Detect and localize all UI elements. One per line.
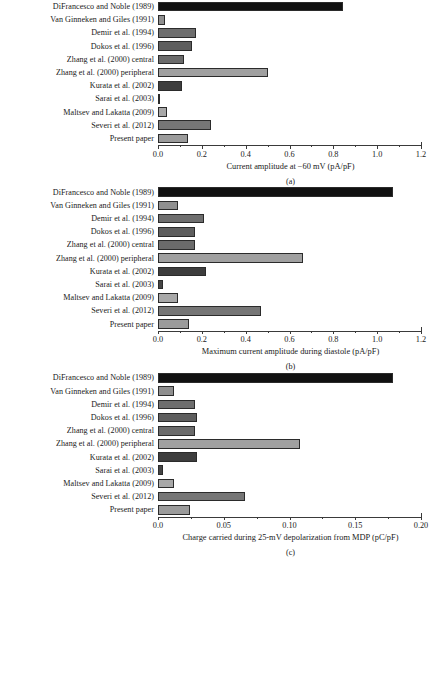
bar (158, 214, 204, 224)
panel-caption: (a) (0, 177, 445, 186)
category-label: DiFrancesco and Noble (1989) (0, 186, 154, 199)
category-label: Sarai et al. (2003) (0, 464, 154, 477)
x-axis-tick (246, 145, 247, 149)
bar-row (158, 490, 421, 503)
x-axis-title-text: Current amplitude at −60 mV (pA/pF) (226, 162, 354, 171)
bar (158, 479, 174, 489)
bar (158, 465, 163, 475)
x-axis-tick-label: 0.2 (197, 335, 207, 345)
chart-panel: DiFrancesco and Noble (1989)Van Ginneken… (0, 371, 445, 557)
x-axis-tick-label: 0.20 (414, 521, 429, 531)
category-label: Sarai et al. (2003) (0, 92, 154, 105)
category-label: Sarai et al. (2003) (0, 278, 154, 291)
bar-row (158, 398, 421, 411)
x-axis-tick-label: 0.4 (240, 150, 250, 160)
x-axis-tick (421, 145, 422, 149)
x-axis-tick (333, 145, 334, 149)
x-axis-tick-label: 0.8 (328, 150, 338, 160)
bar-row (158, 278, 421, 291)
x-axis-minor-tick (311, 331, 312, 333)
x-axis-tick (290, 145, 291, 149)
x-axis-tick (421, 517, 422, 521)
bar (158, 505, 190, 515)
bar (158, 81, 182, 91)
bar (158, 187, 393, 197)
x-axis: 0.00.050.100.150.20 (158, 517, 421, 518)
bar-row (158, 66, 421, 79)
x-axis-minor-tick (311, 145, 312, 147)
category-label: Zhang et al. (2000) peripheral (0, 66, 154, 79)
x-axis-tick-label: 0.05 (216, 521, 231, 531)
category-label: Kurata et al. (2002) (0, 451, 154, 464)
bar-row (158, 26, 421, 39)
x-axis-tick-label: 1.0 (372, 335, 382, 345)
category-label: Maltsev and Lakatta (2009) (0, 477, 154, 490)
bar-row (158, 106, 421, 119)
panel-plot-area: DiFrancesco and Noble (1989)Van Ginneken… (0, 186, 445, 331)
category-label: Kurata et al. (2002) (0, 265, 154, 278)
bar (158, 227, 195, 237)
bar (158, 2, 343, 12)
x-axis-tick-label: 0.4 (240, 335, 250, 345)
bar (158, 386, 174, 396)
bar-row (158, 119, 421, 132)
bar-row (158, 304, 421, 317)
category-label: Zhang et al. (2000) central (0, 53, 154, 66)
category-label: Demir et al. (1994) (0, 398, 154, 411)
category-label: Maltsev and Lakatta (2009) (0, 291, 154, 304)
category-label: Zhang et al. (2000) peripheral (0, 437, 154, 450)
x-axis-tick (246, 331, 247, 335)
x-axis-minor-tick (268, 145, 269, 147)
bar-row (158, 477, 421, 490)
x-axis-tick-label: 0.0 (153, 335, 163, 345)
x-axis-minor-tick (180, 145, 181, 147)
chart-panel: DiFrancesco and Noble (1989)Van Ginneken… (0, 0, 445, 186)
category-label: Zhang et al. (2000) central (0, 238, 154, 251)
category-label: DiFrancesco and Noble (1989) (0, 371, 154, 384)
x-axis-tick-label: 0.15 (348, 521, 363, 531)
bar-row (158, 437, 421, 450)
x-axis-tick (224, 517, 225, 521)
bar (158, 28, 196, 38)
bar (158, 134, 188, 144)
x-axis-title: Maximum current amplitude during diastol… (0, 347, 445, 356)
bar (158, 15, 165, 25)
x-axis-minor-tick (191, 517, 192, 519)
bar-row (158, 225, 421, 238)
bar-row (158, 132, 421, 145)
category-label: Severi et al. (2012) (0, 304, 154, 317)
bar (158, 373, 393, 383)
category-label: Zhang et al. (2000) central (0, 424, 154, 437)
x-axis: 0.00.20.40.60.81.01.2 (158, 145, 421, 146)
bar-row (158, 0, 421, 13)
panel-caption: (c) (0, 548, 445, 557)
x-axis-tick (202, 145, 203, 149)
bar (158, 94, 160, 104)
x-axis-minor-tick (355, 331, 356, 333)
panel-plot-area: DiFrancesco and Noble (1989)Van Ginneken… (0, 0, 445, 145)
x-axis: 0.00.20.40.60.81.01.2 (158, 331, 421, 332)
category-axis-labels: DiFrancesco and Noble (1989)Van Ginneken… (0, 0, 158, 145)
bar (158, 267, 206, 277)
category-label: Present paper (0, 318, 154, 331)
x-axis-minor-tick (399, 145, 400, 147)
x-axis-tick-label: 1.2 (416, 335, 426, 345)
plot-canvas: 0.00.20.40.60.81.01.2 (158, 186, 445, 331)
panel-plot-area: DiFrancesco and Noble (1989)Van Ginneken… (0, 371, 445, 516)
bar-row (158, 411, 421, 424)
plot-canvas: 0.00.20.40.60.81.01.2 (158, 0, 445, 145)
category-label: Severi et al. (2012) (0, 490, 154, 503)
category-label: Severi et al. (2012) (0, 119, 154, 132)
bar (158, 41, 192, 51)
chart-panel: DiFrancesco and Noble (1989)Van Ginneken… (0, 186, 445, 372)
x-axis-tick-label: 0.10 (282, 521, 297, 531)
bar (158, 201, 178, 211)
bar (158, 306, 261, 316)
x-axis-minor-tick (355, 145, 356, 147)
x-axis-tick (377, 331, 378, 335)
x-axis-minor-tick (257, 517, 258, 519)
x-axis-minor-tick (268, 331, 269, 333)
x-axis-tick-label: 0.0 (153, 150, 163, 160)
bar-row (158, 503, 421, 516)
bar-row (158, 252, 421, 265)
